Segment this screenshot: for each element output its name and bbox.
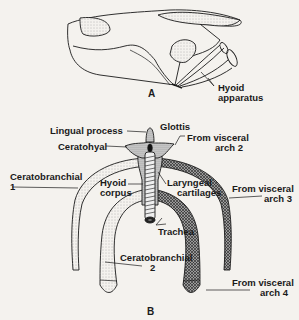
ceratohyal-label: Ceratohyal xyxy=(58,142,107,152)
from-visceral-arch-3-label: From visceral arch 3 xyxy=(232,184,294,204)
label-line: 2 xyxy=(120,263,192,273)
ceratobranchial-2-label: Ceratobranchial 2 xyxy=(120,253,192,273)
label-line: arch 2 xyxy=(187,143,249,153)
label-line: arch 3 xyxy=(232,194,294,204)
hyoid-corpus-label: Hyoid corpus xyxy=(100,178,132,198)
skull-lateral-view xyxy=(68,10,242,88)
label-line: 1 xyxy=(10,182,82,192)
lingual-process-label: Lingual process xyxy=(50,126,123,136)
label-line: cartilages xyxy=(167,188,221,198)
label-line: arch 4 xyxy=(232,288,294,298)
from-visceral-arch-4-label: From visceral arch 4 xyxy=(232,278,294,298)
label-line: Ceratobranchial xyxy=(120,253,192,263)
panel-label-b: B xyxy=(147,306,154,317)
laryngeal-cartilages-label: Laryngeal cartilages xyxy=(167,178,221,198)
glottis-label: Glottis xyxy=(160,122,190,132)
label-line: corpus xyxy=(100,188,132,198)
ceratobranchial-1-label: Ceratobranchial 1 xyxy=(10,172,82,192)
label-line: apparatus xyxy=(218,93,263,103)
from-visceral-arch-2-label: From visceral arch 2 xyxy=(187,133,249,153)
trachea-label: Trachea xyxy=(158,227,194,237)
hyoid-apparatus-label: Hyoid apparatus xyxy=(218,83,263,103)
panel-label-a: A xyxy=(148,88,155,99)
label-line: Ceratobranchial xyxy=(10,172,82,182)
